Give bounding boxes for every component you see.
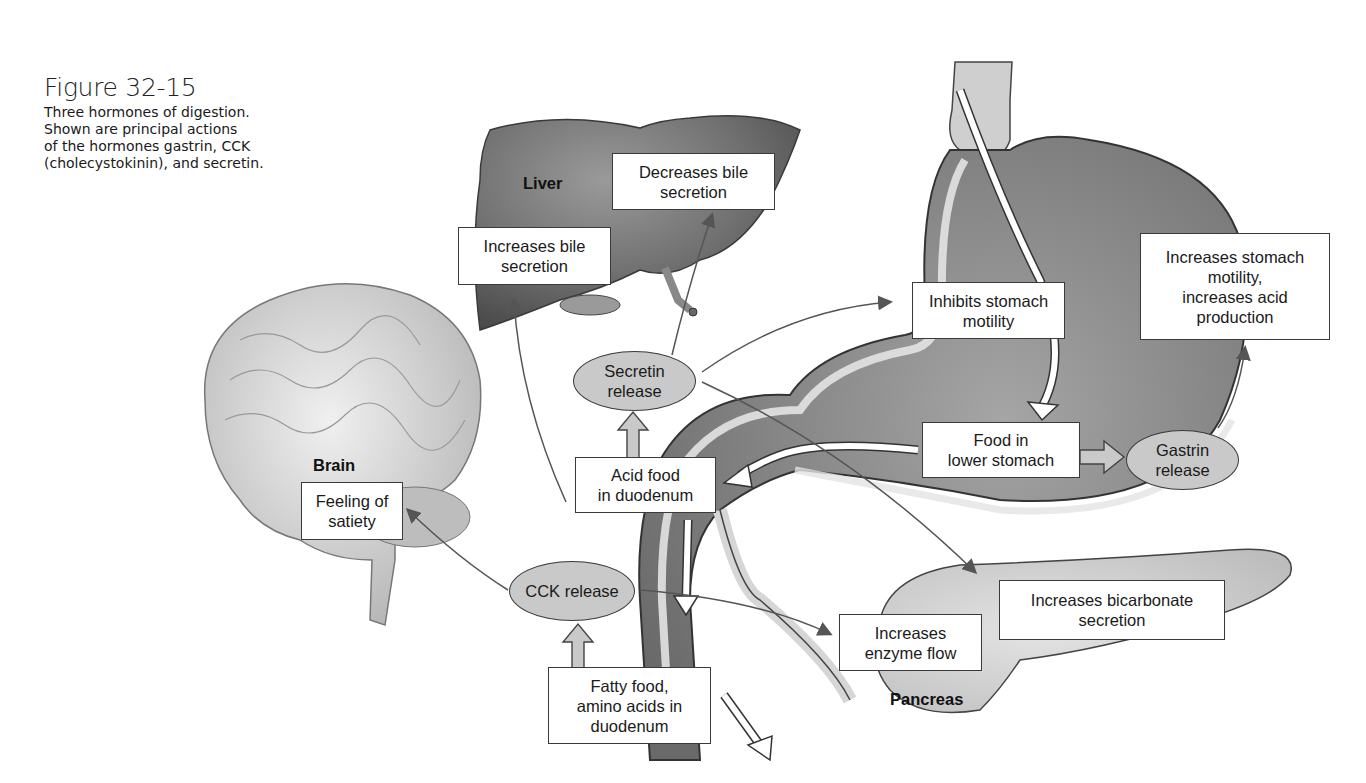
decreases-bile-box: Decreases bile secretion: [612, 153, 775, 210]
food-lower-stomach-box: Food in lower stomach: [922, 422, 1080, 478]
secretin-release-oval: Secretin release: [573, 351, 696, 411]
brain-label: Brain: [313, 456, 355, 475]
brain-illustration: [205, 284, 481, 625]
acid-food-box: Acid food in duodenum: [575, 457, 716, 513]
pancreas-label: Pancreas: [890, 690, 963, 709]
figure-caption: Figure 32-15 Three hormones of digestion…: [44, 74, 344, 172]
feeling-satiety-box: Feeling of satiety: [301, 482, 403, 540]
cck-release-oval: CCK release: [509, 561, 635, 621]
increases-stomach-box: Increases stomach motility, increases ac…: [1140, 233, 1330, 340]
increases-bile-box: Increases bile secretion: [458, 227, 611, 285]
increases-enzyme-box: Increases enzyme flow: [839, 614, 982, 671]
inhibits-stomach-box: Inhibits stomach motility: [912, 282, 1065, 339]
fatty-food-box: Fatty food, amino acids in duodenum: [548, 667, 711, 744]
figure-description: Three hormones of digestion. Shown are p…: [44, 104, 344, 172]
increases-bicarbonate-box: Increases bicarbonate secretion: [999, 580, 1225, 640]
arrow-acid-to-secretin-icon: [618, 412, 648, 458]
gastrin-release-oval: Gastrin release: [1126, 430, 1239, 490]
figure-title: Figure 32-15: [44, 74, 344, 102]
liver-illustration: [475, 116, 800, 330]
liver-label: Liver: [523, 174, 562, 193]
arrow-cck-to-bile-increase: [514, 300, 566, 502]
arrow-fatty-to-cck-icon: [563, 624, 593, 668]
